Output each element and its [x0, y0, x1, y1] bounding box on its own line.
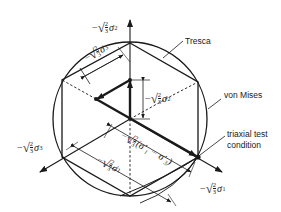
- von-mises-label: von Mises: [224, 91, 262, 100]
- sigma3-axis-label: −√ 23 σ′3: [17, 141, 43, 154]
- sigma1-axis-label: −√ 23 σ′1: [200, 182, 226, 195]
- yield-surface-diagram: Tresca von Mises triaxial test condition…: [0, 0, 281, 212]
- sigma2-axis-label: −√ 23 σ′2: [92, 21, 118, 34]
- triaxial-label-line2: condition: [227, 141, 261, 150]
- sigma3-vector: [97, 80, 130, 99]
- pi-plane-figure: [0, 0, 281, 212]
- tresca-label: Tresca: [185, 37, 211, 46]
- von-mises-leader: [208, 99, 221, 109]
- triaxial-label-line1: triaxial test: [227, 130, 268, 139]
- dim-sigma2-label: −√ 23 σ′2: [145, 92, 171, 105]
